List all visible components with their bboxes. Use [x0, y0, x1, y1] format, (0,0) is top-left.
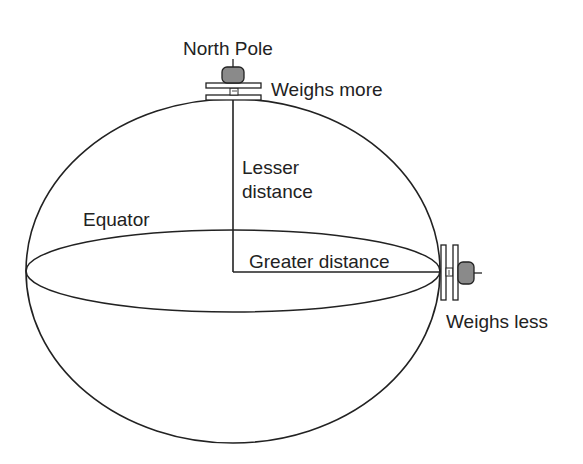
- lesser-distance-label-line2: distance: [242, 182, 313, 201]
- equator-scale-icon: [441, 245, 482, 300]
- north-pole-label: North Pole: [183, 39, 273, 58]
- lesser-distance-label-line1: Lesser: [242, 158, 299, 177]
- weighs-less-label: Weighs less: [446, 312, 548, 331]
- earth-diagram: [0, 0, 583, 464]
- north-pole-scale-icon: [206, 59, 261, 100]
- equator-label: Equator: [83, 210, 150, 229]
- weighs-more-label: Weighs more: [271, 80, 383, 99]
- greater-distance-label: Greater distance: [249, 252, 389, 271]
